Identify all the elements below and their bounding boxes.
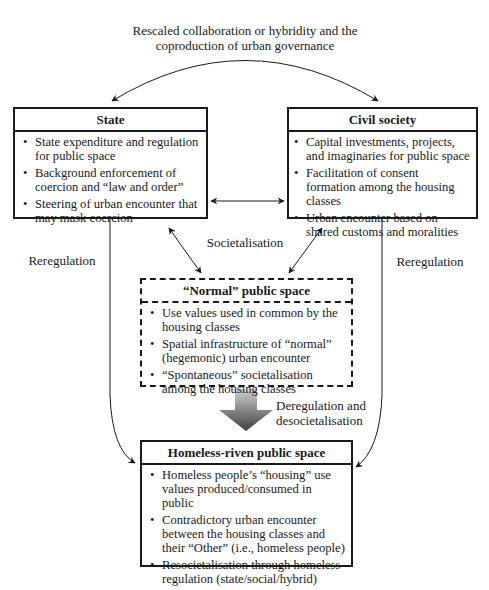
normal-box-list: Use values used in common by the housing… [142, 303, 351, 401]
civil-society-box-title: Civil society [289, 109, 476, 132]
governance-label-line1: Rescaled collaboration or hybridity and … [100, 23, 390, 38]
governance-label-line2: coproduction of urban governance [100, 38, 390, 53]
normal-item: Spatial infrastructure of “normal” (hege… [150, 337, 345, 365]
homeless-item: Homeless people’s “housing” use values p… [150, 468, 345, 510]
civil-society-box-list: Capital investments, projects, and imagi… [289, 132, 476, 244]
state-box-list: State expenditure and regulation for pub… [15, 132, 206, 230]
state-item: Steering of urban encounter that may mas… [23, 197, 200, 225]
homeless-box-title: Homeless-riven public space [142, 442, 351, 465]
state-box-title: State [15, 109, 206, 132]
normal-item: “Spontaneous” societalisation among the … [150, 368, 345, 396]
governance-curve-arrow [112, 61, 378, 102]
deregulation-label: Deregulation and desocietalisation [276, 398, 396, 428]
civil-society-box: Civil society Capital investments, proje… [287, 107, 478, 219]
governance-label: Rescaled collaboration or hybridity and … [100, 23, 390, 53]
homeless-item: Contradictory urban encounter between th… [150, 513, 345, 555]
civil-item: Capital investments, projects, and imagi… [294, 135, 470, 163]
normal-item: Use values used in common by the housing… [150, 306, 345, 334]
civil-item: Facilitation of consent formation among … [294, 166, 470, 208]
normal-box-title: “Normal” public space [142, 280, 351, 303]
state-box: State State expenditure and regulation f… [13, 107, 208, 219]
societalisation-label: Societalisation [195, 235, 295, 250]
homeless-box-list: Homeless people’s “housing” use values p… [142, 465, 351, 590]
homeless-riven-public-space-box: Homeless-riven public space Homeless peo… [140, 440, 353, 567]
deregulation-label-line2: desocietalisation [276, 413, 396, 428]
left-reregulation-arrow [110, 218, 135, 463]
reregulation-right-label: Reregulation [390, 254, 470, 269]
homeless-item: Resocietalisation through homeless regul… [150, 558, 345, 586]
right-reregulation-arrow [356, 218, 382, 467]
state-item: State expenditure and regulation for pub… [23, 135, 200, 163]
state-item: Background enforcement of coercion and “… [23, 166, 200, 194]
reregulation-left-label: Reregulation [22, 253, 102, 268]
deregulation-label-line1: Deregulation and [276, 398, 396, 413]
civil-item: Urban encounter based on shared customs … [294, 211, 470, 239]
normal-public-space-box: “Normal” public space Use values used in… [140, 278, 353, 387]
